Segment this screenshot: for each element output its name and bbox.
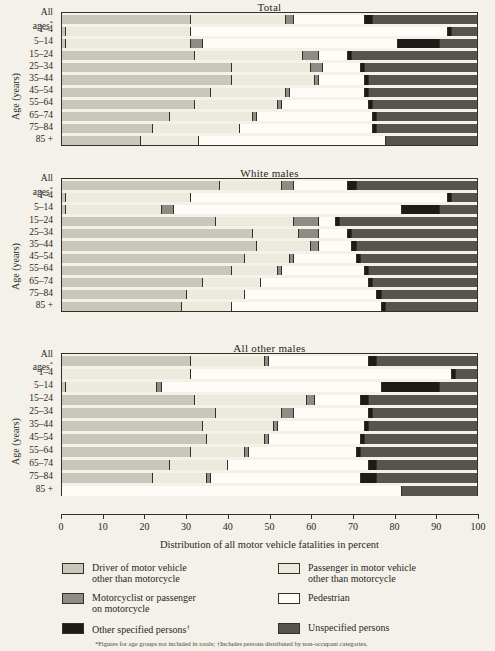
segment-pedestrian[interactable] bbox=[191, 369, 452, 379]
segment-other[interactable] bbox=[365, 15, 373, 24]
segment-passenger[interactable] bbox=[195, 395, 307, 405]
legend-item-other[interactable]: Other specified persons† bbox=[62, 622, 190, 635]
segment-driver[interactable] bbox=[62, 229, 253, 238]
segment-pedestrian[interactable] bbox=[199, 136, 386, 145]
segment-passenger[interactable] bbox=[187, 290, 245, 299]
segment-driver[interactable] bbox=[62, 408, 216, 418]
segment-unspecified[interactable] bbox=[352, 229, 477, 238]
segment-pedestrian[interactable] bbox=[62, 486, 402, 496]
segment-pedestrian[interactable] bbox=[228, 460, 369, 470]
stacked-bar[interactable] bbox=[62, 98, 477, 110]
stacked-bar[interactable] bbox=[62, 471, 477, 484]
segment-other[interactable] bbox=[361, 473, 378, 483]
segment-pedestrian[interactable] bbox=[294, 181, 348, 190]
segment-passenger[interactable] bbox=[232, 75, 315, 84]
segment-passenger[interactable] bbox=[141, 136, 199, 145]
stacked-bar[interactable] bbox=[62, 203, 477, 215]
segment-driver[interactable] bbox=[62, 181, 220, 190]
segment-pedestrian[interactable] bbox=[278, 421, 365, 431]
segment-passenger[interactable] bbox=[191, 447, 245, 457]
segment-driver[interactable] bbox=[62, 447, 191, 457]
segment-driver[interactable] bbox=[62, 395, 195, 405]
segment-unspecified[interactable] bbox=[440, 382, 477, 392]
segment-unspecified[interactable] bbox=[452, 27, 477, 36]
segment-passenger[interactable] bbox=[216, 408, 282, 418]
segment-unspecified[interactable] bbox=[456, 369, 477, 379]
stacked-bar[interactable] bbox=[62, 252, 477, 264]
segment-unspecified[interactable] bbox=[386, 136, 477, 145]
stacked-bar[interactable] bbox=[62, 289, 477, 301]
segment-passenger[interactable] bbox=[207, 434, 265, 444]
segment-other[interactable] bbox=[361, 395, 369, 405]
segment-driver[interactable] bbox=[62, 136, 141, 145]
stacked-bar[interactable] bbox=[62, 86, 477, 98]
segment-passenger[interactable] bbox=[182, 302, 232, 311]
segment-driver[interactable] bbox=[62, 302, 182, 311]
segment-pedestrian[interactable] bbox=[249, 447, 357, 457]
segment-pedestrian[interactable] bbox=[203, 39, 398, 48]
segment-moto[interactable] bbox=[191, 39, 203, 48]
segment-unspecified[interactable] bbox=[452, 193, 477, 202]
legend-item-pedestrian[interactable]: Pedestrian bbox=[278, 592, 350, 604]
legend-item-unspecified[interactable]: Unspecified persons bbox=[278, 622, 389, 634]
segment-other[interactable] bbox=[348, 181, 356, 190]
stacked-bar[interactable] bbox=[62, 62, 477, 74]
segment-passenger[interactable] bbox=[195, 100, 278, 109]
segment-passenger[interactable] bbox=[232, 63, 311, 72]
segment-unspecified[interactable] bbox=[440, 39, 477, 48]
stacked-bar[interactable] bbox=[62, 25, 477, 37]
segment-other[interactable] bbox=[369, 460, 377, 470]
segment-pedestrian[interactable] bbox=[294, 254, 356, 263]
segment-pedestrian[interactable] bbox=[315, 395, 361, 405]
segment-driver[interactable] bbox=[62, 356, 191, 366]
segment-unspecified[interactable] bbox=[377, 473, 477, 483]
segment-unspecified[interactable] bbox=[377, 112, 477, 121]
segment-passenger[interactable] bbox=[170, 460, 228, 470]
segment-unspecified[interactable] bbox=[357, 181, 477, 190]
segment-unspecified[interactable] bbox=[369, 88, 477, 97]
segment-other[interactable] bbox=[402, 205, 439, 214]
segment-moto[interactable] bbox=[294, 217, 319, 226]
stacked-bar[interactable] bbox=[62, 191, 477, 203]
stacked-bar[interactable] bbox=[62, 484, 477, 497]
segment-driver[interactable] bbox=[62, 217, 216, 226]
segment-unspecified[interactable] bbox=[340, 217, 477, 226]
segment-pedestrian[interactable] bbox=[319, 51, 348, 60]
segment-passenger[interactable] bbox=[203, 421, 274, 431]
segment-unspecified[interactable] bbox=[440, 205, 477, 214]
segment-pedestrian[interactable] bbox=[211, 473, 360, 483]
segment-moto[interactable] bbox=[162, 205, 174, 214]
segment-unspecified[interactable] bbox=[386, 302, 477, 311]
segment-passenger[interactable] bbox=[62, 369, 191, 379]
segment-unspecified[interactable] bbox=[377, 124, 477, 133]
segment-passenger[interactable] bbox=[220, 181, 282, 190]
stacked-bar[interactable] bbox=[62, 367, 477, 380]
stacked-bar[interactable] bbox=[62, 276, 477, 288]
segment-driver[interactable] bbox=[62, 473, 153, 483]
stacked-bar[interactable] bbox=[62, 432, 477, 445]
segment-passenger[interactable] bbox=[191, 15, 286, 24]
segment-driver[interactable] bbox=[62, 290, 187, 299]
segment-pedestrian[interactable] bbox=[269, 356, 369, 366]
segment-other[interactable] bbox=[398, 39, 440, 48]
segment-unspecified[interactable] bbox=[373, 278, 477, 287]
segment-moto[interactable] bbox=[303, 51, 320, 60]
stacked-bar[interactable] bbox=[62, 135, 477, 147]
segment-other[interactable] bbox=[369, 356, 377, 366]
segment-pedestrian[interactable] bbox=[269, 434, 360, 444]
segment-passenger[interactable] bbox=[195, 51, 303, 60]
segment-driver[interactable] bbox=[62, 266, 232, 275]
segment-pedestrian[interactable] bbox=[245, 290, 378, 299]
segment-pedestrian[interactable] bbox=[191, 27, 448, 36]
segment-unspecified[interactable] bbox=[357, 241, 477, 250]
segment-unspecified[interactable] bbox=[361, 447, 477, 457]
segment-driver[interactable] bbox=[62, 434, 207, 444]
segment-pedestrian[interactable] bbox=[282, 266, 365, 275]
stacked-bar[interactable] bbox=[62, 13, 477, 25]
segment-passenger[interactable] bbox=[66, 39, 191, 48]
segment-driver[interactable] bbox=[62, 112, 170, 121]
segment-unspecified[interactable] bbox=[369, 266, 477, 275]
segment-other[interactable] bbox=[382, 382, 440, 392]
stacked-bar[interactable] bbox=[62, 240, 477, 252]
stacked-bar[interactable] bbox=[62, 301, 477, 313]
